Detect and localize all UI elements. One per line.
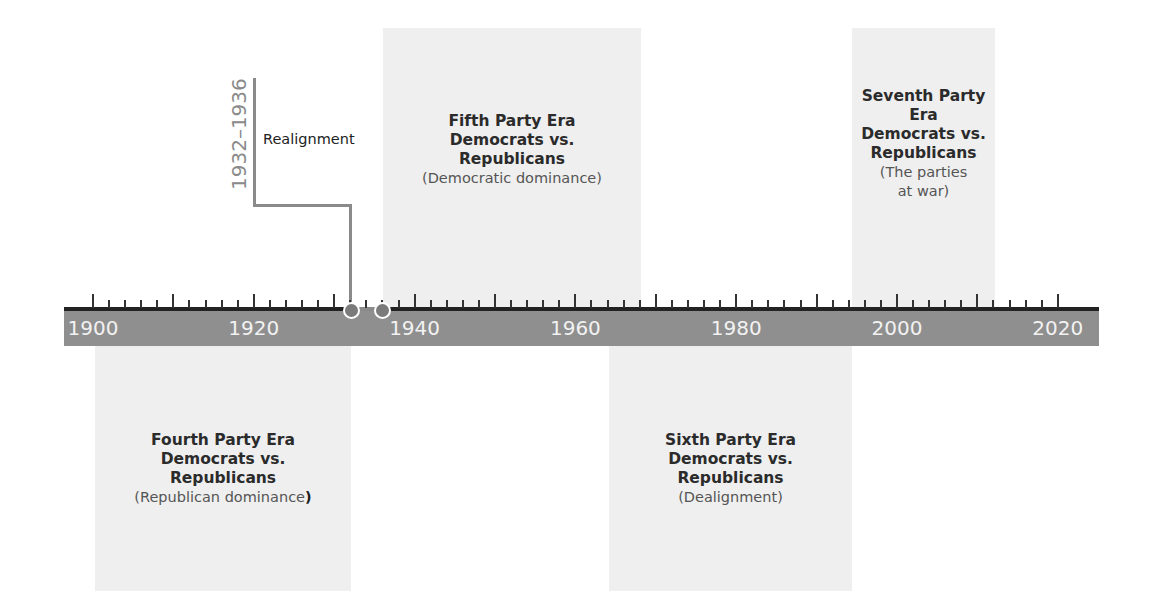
minor-tick bbox=[140, 300, 142, 308]
major-tick bbox=[333, 294, 335, 308]
realignment-end-marker bbox=[374, 302, 391, 319]
major-tick bbox=[172, 294, 174, 308]
realignment-connector-horizontal bbox=[253, 204, 352, 207]
era-subtitle-close: ) bbox=[305, 489, 312, 505]
minor-tick bbox=[928, 300, 930, 308]
minor-tick bbox=[944, 300, 946, 308]
year-label: 1900 bbox=[58, 315, 128, 341]
minor-tick bbox=[301, 300, 303, 308]
minor-tick bbox=[703, 300, 705, 308]
realignment-connector-vertical-top bbox=[253, 78, 256, 207]
minor-tick bbox=[221, 300, 223, 308]
realignment-connector-vertical-bottom bbox=[349, 204, 352, 304]
minor-tick bbox=[510, 300, 512, 308]
minor-tick bbox=[960, 300, 962, 308]
era-subtitle-sixth: (Dealignment) bbox=[678, 488, 783, 507]
minor-tick bbox=[205, 300, 207, 308]
era-title-sixth: Sixth Party Era Democrats vs. Republican… bbox=[665, 431, 796, 488]
major-tick bbox=[92, 294, 94, 308]
minor-tick bbox=[478, 300, 480, 308]
major-tick bbox=[655, 294, 657, 308]
minor-tick bbox=[912, 300, 914, 308]
era-title-fourth: Fourth Party Era Democrats vs. Republica… bbox=[151, 431, 295, 488]
minor-tick bbox=[1041, 300, 1043, 308]
minor-tick bbox=[687, 300, 689, 308]
minor-tick bbox=[398, 300, 400, 308]
major-tick bbox=[414, 294, 416, 308]
minor-tick bbox=[365, 300, 367, 308]
minor-tick bbox=[590, 300, 592, 308]
minor-tick bbox=[1009, 300, 1011, 308]
era-box-fifth: Fifth Party Era Democrats vs. Republican… bbox=[383, 28, 641, 307]
minor-tick bbox=[864, 300, 866, 308]
minor-tick bbox=[124, 300, 126, 308]
realignment-start-marker bbox=[343, 302, 360, 319]
minor-tick bbox=[783, 300, 785, 308]
minor-tick bbox=[558, 300, 560, 308]
minor-tick bbox=[848, 300, 850, 308]
era-subtitle-seventh: (The parties at war) bbox=[880, 163, 967, 201]
major-tick bbox=[896, 294, 898, 308]
minor-tick bbox=[639, 300, 641, 308]
era-box-fourth: Fourth Party Era Democrats vs. Republica… bbox=[95, 346, 351, 591]
era-box-sixth: Sixth Party Era Democrats vs. Republican… bbox=[609, 346, 852, 591]
year-label: 1940 bbox=[380, 315, 450, 341]
minor-tick bbox=[832, 300, 834, 308]
minor-tick bbox=[767, 300, 769, 308]
minor-tick bbox=[1025, 300, 1027, 308]
era-title-seventh: Seventh Party Era Democrats vs. Republic… bbox=[861, 87, 986, 163]
minor-tick bbox=[992, 300, 994, 308]
major-tick bbox=[494, 294, 496, 308]
minor-tick bbox=[156, 300, 158, 308]
major-tick bbox=[574, 294, 576, 308]
major-tick bbox=[735, 294, 737, 308]
era-subtitle-fourth: (Republican dominance) bbox=[134, 488, 311, 507]
minor-tick bbox=[269, 300, 271, 308]
era-subtitle-fifth: (Democratic dominance) bbox=[422, 169, 602, 188]
era-title-fifth: Fifth Party Era Democrats vs. Republican… bbox=[448, 112, 575, 169]
year-label: 2020 bbox=[1023, 315, 1093, 341]
era-subtitle-text: (Republican dominance bbox=[134, 489, 305, 505]
minor-tick bbox=[671, 300, 673, 308]
realignment-label: Realignment bbox=[263, 131, 355, 147]
minor-tick bbox=[446, 300, 448, 308]
year-label: 1980 bbox=[701, 315, 771, 341]
minor-tick bbox=[462, 300, 464, 308]
year-label: 1960 bbox=[540, 315, 610, 341]
year-label: 1920 bbox=[219, 315, 289, 341]
year-label: 2000 bbox=[862, 315, 932, 341]
minor-tick bbox=[542, 300, 544, 308]
minor-tick bbox=[623, 300, 625, 308]
minor-tick bbox=[719, 300, 721, 308]
realignment-years-label: 1932–1936 bbox=[228, 78, 250, 190]
minor-tick bbox=[430, 300, 432, 308]
minor-tick bbox=[800, 300, 802, 308]
minor-tick bbox=[526, 300, 528, 308]
major-tick bbox=[1057, 294, 1059, 308]
minor-tick bbox=[237, 300, 239, 308]
minor-tick bbox=[285, 300, 287, 308]
major-tick bbox=[816, 294, 818, 308]
minor-tick bbox=[317, 300, 319, 308]
major-tick bbox=[976, 294, 978, 308]
major-tick bbox=[253, 294, 255, 308]
minor-tick bbox=[188, 300, 190, 308]
era-box-seventh: Seventh Party Era Democrats vs. Republic… bbox=[852, 28, 995, 307]
minor-tick bbox=[880, 300, 882, 308]
minor-tick bbox=[607, 300, 609, 308]
minor-tick bbox=[751, 300, 753, 308]
minor-tick bbox=[108, 300, 110, 308]
